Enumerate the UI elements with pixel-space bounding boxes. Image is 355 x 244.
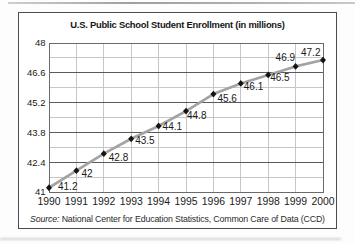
svg-text:1997: 1997 [229, 196, 252, 207]
svg-text:44.8: 44.8 [187, 110, 207, 121]
svg-text:1993: 1993 [120, 196, 143, 207]
svg-text:48: 48 [35, 37, 46, 48]
svg-text:47.2: 47.2 [301, 47, 321, 58]
svg-text:1995: 1995 [174, 196, 197, 207]
svg-text:44.1: 44.1 [163, 121, 183, 132]
svg-text:46.1: 46.1 [244, 81, 264, 92]
svg-text:1996: 1996 [202, 196, 225, 207]
svg-text:1998: 1998 [257, 196, 280, 207]
svg-text:42: 42 [81, 168, 93, 179]
svg-text:43.8: 43.8 [27, 127, 46, 138]
svg-text:43.5: 43.5 [135, 135, 155, 146]
svg-text:1992: 1992 [92, 196, 115, 207]
svg-text:42.8: 42.8 [109, 152, 129, 163]
svg-text:46.9: 46.9 [276, 52, 296, 63]
svg-text:46.6: 46.6 [27, 67, 46, 78]
page: { "figure": { "border_color": "#4c4c4c",… [0, 0, 355, 244]
page-bottom-shadow [0, 238, 341, 240]
svg-text:1994: 1994 [147, 196, 170, 207]
svg-text:41.2: 41.2 [58, 181, 78, 192]
svg-text:45.2: 45.2 [27, 97, 46, 108]
svg-text:1991: 1991 [65, 196, 88, 207]
svg-text:45.6: 45.6 [217, 93, 237, 104]
svg-text:1990: 1990 [37, 196, 60, 207]
svg-text:2000: 2000 [311, 196, 334, 207]
svg-text:1999: 1999 [284, 196, 307, 207]
enrollment-line-chart: 41.24242.843.544.144.845.646.146.546.947… [0, 0, 355, 244]
svg-text:42.4: 42.4 [27, 157, 46, 168]
svg-text:46.5: 46.5 [270, 72, 290, 83]
